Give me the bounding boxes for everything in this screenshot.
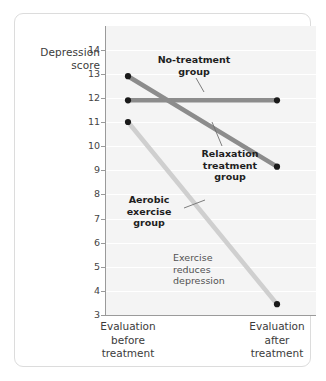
- annotation-exercise-note-line3: depression: [173, 275, 251, 287]
- y-tick-mark: [101, 170, 106, 171]
- x-axis-label-before-line3: treatment: [73, 347, 183, 361]
- y-tick-label: 6: [74, 237, 100, 248]
- gridline: [106, 98, 316, 99]
- annotation-aerobic: Aerobic exercise group: [116, 194, 182, 229]
- y-tick-label: 9: [74, 164, 100, 175]
- y-tick-label: 8: [74, 188, 100, 199]
- y-tick-label: 14: [74, 44, 100, 55]
- y-tick-mark: [101, 122, 106, 123]
- x-axis-label-before-line2: before: [73, 334, 183, 348]
- y-tick-mark: [101, 315, 106, 316]
- annotation-aerobic-line1: Aerobic: [116, 194, 182, 206]
- y-tick-label: 12: [74, 92, 100, 103]
- y-tick-mark: [101, 50, 106, 51]
- x-axis-label-before-line1: Evaluation: [73, 320, 183, 334]
- annotation-aerobic-line2: exercise: [116, 206, 182, 218]
- annotation-aerobic-line3: group: [116, 217, 182, 229]
- annotation-no-treatment-line2: group: [148, 66, 240, 78]
- y-tick-label: 13: [74, 68, 100, 79]
- x-axis-label-after: Evaluation after treatment: [222, 320, 326, 361]
- annotation-no-treatment: No-treatment group: [148, 54, 240, 77]
- gridline: [106, 291, 316, 292]
- y-tick-mark: [101, 243, 106, 244]
- gridline: [106, 50, 316, 51]
- gridline: [106, 122, 316, 123]
- x-axis-label-after-line3: treatment: [222, 347, 326, 361]
- y-tick-mark: [101, 291, 106, 292]
- y-tick-mark: [101, 219, 106, 220]
- x-axis-label-before: Evaluation before treatment: [73, 320, 183, 361]
- x-axis-label-after-line2: after: [222, 334, 326, 348]
- annotation-exercise-note-line2: reduces: [173, 264, 251, 276]
- annotation-exercise-note-line1: Exercise: [173, 252, 251, 264]
- annotation-relaxation-line1: Relaxation: [188, 148, 272, 160]
- annotation-relaxation: Relaxation treatment group: [188, 148, 272, 183]
- x-axis-label-after-line1: Evaluation: [222, 320, 326, 334]
- y-tick-label: 11: [74, 116, 100, 127]
- y-tick-label: 3: [74, 309, 100, 320]
- annotation-exercise-note: Exercise reduces depression: [173, 252, 251, 287]
- chart-root: Depression score 14131211109876543 No-tr…: [0, 0, 326, 381]
- y-tick-mark: [101, 194, 106, 195]
- gridline: [106, 146, 316, 147]
- annotation-relaxation-line2: treatment: [188, 160, 272, 172]
- y-tick-mark: [101, 98, 106, 99]
- y-tick-mark: [101, 74, 106, 75]
- gridline: [106, 243, 316, 244]
- annotation-no-treatment-line1: No-treatment: [148, 54, 240, 66]
- x-axis-line: [105, 315, 316, 316]
- y-tick-label: 4: [74, 285, 100, 296]
- y-tick-mark: [101, 267, 106, 268]
- y-tick-label: 10: [74, 140, 100, 151]
- y-tick-mark: [101, 146, 106, 147]
- y-tick-label: 7: [74, 213, 100, 224]
- annotation-relaxation-line3: group: [188, 171, 272, 183]
- y-tick-label: 5: [74, 261, 100, 272]
